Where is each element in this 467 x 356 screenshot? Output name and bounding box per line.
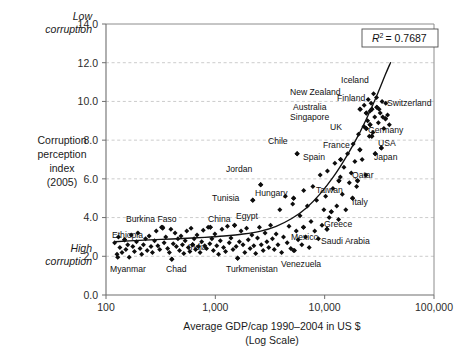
data-point	[318, 172, 323, 177]
r2-value: = 0.7687	[386, 32, 427, 44]
data-point-labeled	[301, 225, 306, 230]
point-label: Myanmar	[110, 264, 146, 274]
y-tick-label: 12.0	[78, 57, 99, 69]
point-label: Germany	[368, 125, 404, 135]
y-axis-title-line: (2005)	[47, 176, 77, 188]
point-label: UK	[330, 122, 342, 132]
r2-annotation: R2= 0.7687	[362, 29, 438, 47]
data-point	[263, 231, 268, 236]
data-point	[189, 226, 194, 231]
data-point-labeled	[291, 196, 296, 201]
data-point	[201, 228, 206, 233]
data-point-labeled	[232, 223, 237, 228]
data-point	[248, 246, 253, 251]
data-point	[274, 232, 279, 237]
data-point	[251, 243, 256, 248]
data-point	[378, 111, 383, 116]
y-axis-title-group: Corruptionperceptionindex(2005)	[37, 134, 86, 188]
point-label: Saudi Arabia	[321, 236, 370, 246]
data-point	[150, 250, 155, 255]
high-corruption-annotation: High	[70, 242, 92, 254]
point-label: India	[188, 242, 207, 252]
data-point-labeled	[250, 198, 255, 203]
r2-exponent: 2	[380, 32, 384, 39]
x-axis-title-scale-note: (Log Scale)	[245, 334, 299, 346]
data-point-labeled	[329, 209, 334, 214]
data-point	[281, 234, 286, 239]
data-point	[171, 241, 176, 246]
chart-container: EthiopiaMyanmarBurkina FasoChadChinaIndi…	[0, 0, 467, 356]
data-point	[343, 207, 348, 212]
data-point	[145, 248, 150, 253]
data-point	[332, 161, 337, 166]
data-point	[347, 180, 352, 185]
low-corruption-annotation: corruption	[45, 23, 92, 35]
y-tick-label: 4.0	[83, 211, 98, 223]
point-label: Iceland	[341, 75, 369, 85]
point-label: France	[323, 140, 350, 150]
point-label: Japan	[374, 152, 398, 162]
data-point	[195, 232, 200, 237]
data-point	[180, 242, 185, 247]
point-label: New Zealand	[290, 87, 341, 97]
data-point	[279, 250, 284, 255]
data-point	[309, 219, 314, 224]
data-point	[334, 203, 339, 208]
data-point	[127, 255, 132, 260]
data-point-labeled	[169, 257, 174, 262]
data-point	[119, 250, 124, 255]
data-point	[218, 238, 223, 243]
y-axis-title-line: perception	[37, 148, 86, 160]
data-point	[261, 248, 266, 253]
point-label: Australia	[293, 102, 327, 112]
data-point	[162, 240, 167, 245]
data-point	[149, 244, 154, 249]
point-label: USA	[378, 138, 396, 148]
point-label: Italy	[352, 197, 368, 207]
data-point	[147, 233, 152, 238]
data-point	[154, 229, 159, 234]
data-point-labeled	[295, 151, 300, 156]
x-tick-label: 1,000	[202, 301, 228, 313]
point-label: Venezuela	[281, 259, 321, 269]
data-point	[310, 184, 315, 189]
point-label: Hungary	[255, 188, 288, 198]
data-point	[239, 229, 244, 234]
data-point-labeled	[357, 147, 362, 152]
data-point	[321, 207, 326, 212]
data-point	[257, 225, 262, 230]
data-point	[266, 245, 271, 250]
y-tick-label: 0.0	[83, 289, 98, 301]
data-point	[132, 249, 137, 254]
point-label: Chad	[166, 264, 187, 274]
point-label: Spain	[303, 152, 325, 162]
data-point	[117, 245, 122, 250]
data-point	[272, 247, 277, 252]
low-corruption-annotation: Low	[73, 10, 94, 22]
data-point	[225, 224, 230, 229]
point-label: Chile	[268, 136, 288, 146]
point-label: China	[208, 214, 231, 224]
data-point	[246, 237, 251, 242]
data-point	[360, 157, 365, 162]
x-tick-label: 100	[97, 301, 115, 313]
point-label: Mexico	[291, 232, 318, 242]
x-tick-labels-group: 1001,00010,000100,000	[97, 301, 453, 313]
data-point	[299, 242, 304, 247]
data-point	[177, 248, 182, 253]
data-point	[341, 165, 346, 170]
point-label: Jordan	[226, 164, 252, 174]
y-tick-label: 6.0	[83, 173, 98, 185]
data-point	[130, 244, 135, 249]
data-point	[354, 184, 359, 189]
data-point	[277, 207, 282, 212]
data-point	[141, 242, 146, 247]
data-point	[219, 227, 224, 232]
data-point	[240, 242, 245, 247]
point-label: Tunisia	[212, 193, 240, 203]
data-point	[372, 114, 377, 119]
x-axis-title: Average GDP/cap 1990–2004 in US $	[183, 320, 360, 332]
data-point	[234, 244, 239, 249]
data-point	[112, 240, 117, 245]
high-corruption-annotation: corruption	[45, 255, 92, 267]
